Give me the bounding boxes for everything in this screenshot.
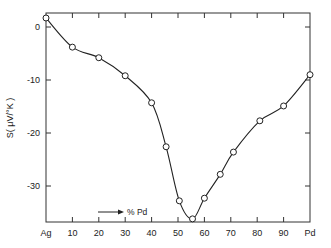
x-tick-label: 40	[147, 228, 157, 238]
y-tick-label: -10	[27, 75, 40, 85]
arrow-right-icon	[118, 210, 124, 215]
x-tick-label: 50	[173, 228, 183, 238]
x-tick-label: 70	[226, 228, 236, 238]
y-axis-label: S( μV/°K )	[5, 98, 15, 138]
data-point	[217, 171, 223, 177]
data-point	[96, 55, 102, 61]
x-tick-label: 20	[94, 228, 104, 238]
data-point	[230, 149, 236, 155]
data-point	[201, 195, 207, 201]
data-point	[307, 72, 313, 78]
x-tick-label: Ag	[40, 228, 51, 238]
x-tick-label: 10	[67, 228, 77, 238]
data-point	[163, 144, 169, 150]
y-tick-label: -20	[27, 128, 40, 138]
x-direction-annotation: % Pd	[98, 207, 148, 217]
data-point	[69, 44, 75, 50]
plot-border	[46, 13, 310, 222]
seebeck-coefficient-chart: Ag102030405060708090Pd 0-10-20-30 S( μV/…	[0, 0, 331, 248]
chart-canvas: Ag102030405060708090Pd 0-10-20-30 S( μV/…	[0, 0, 331, 248]
data-point	[190, 216, 196, 222]
data-point	[281, 103, 287, 109]
x-tick-label: 90	[279, 228, 289, 238]
data-point	[43, 15, 49, 21]
x-tick-label: 80	[252, 228, 262, 238]
x-tick-label: 60	[199, 228, 209, 238]
data-point	[149, 100, 155, 106]
data-markers	[43, 15, 313, 222]
x-axis: Ag102030405060708090Pd	[40, 13, 315, 238]
y-tick-label: 0	[35, 22, 40, 32]
plot-frame	[46, 13, 310, 222]
x-tick-label: Pd	[304, 228, 315, 238]
data-point	[176, 198, 182, 204]
x-tick-label: 30	[120, 228, 130, 238]
data-point	[122, 73, 128, 79]
data-point	[257, 118, 263, 124]
annotation-text: % Pd	[127, 207, 148, 217]
data-curve	[46, 18, 310, 219]
y-tick-label: -30	[27, 181, 40, 191]
